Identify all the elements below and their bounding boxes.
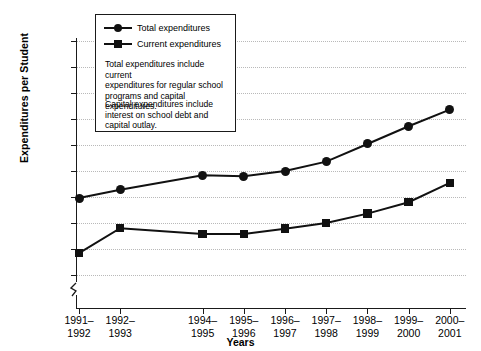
legend-label-current: Current expenditures [137, 39, 221, 49]
data-point-marker [404, 198, 413, 207]
legend-label-total: Total expenditures [137, 23, 210, 33]
data-point-marker [404, 122, 413, 131]
note-line: expenditures for regular school [105, 80, 233, 91]
data-point-marker [75, 249, 84, 258]
data-point-marker [446, 179, 455, 188]
data-point-marker [322, 157, 331, 166]
data-point-marker [198, 171, 207, 180]
legend-box: Total expenditures Current expenditures … [95, 14, 236, 132]
note-capital-expenditures: Capital expenditures include interest on… [105, 99, 233, 131]
circle-marker-icon [104, 23, 132, 33]
note-line: interest on school debt and [105, 110, 233, 121]
data-point-marker [198, 230, 207, 239]
data-point-marker [363, 209, 372, 218]
data-point-marker [322, 219, 331, 228]
data-point-marker [281, 224, 290, 233]
note-line: capital outlay. [105, 120, 233, 131]
square-marker-icon [104, 39, 132, 49]
note-line: Total expenditures include current [105, 59, 233, 80]
chart-container: Expenditures per Student 10,0009,5009,00… [0, 0, 481, 351]
data-point-marker [116, 224, 125, 233]
note-line: Capital expenditures include [105, 99, 233, 110]
data-point-marker [239, 172, 248, 181]
data-point-marker [281, 167, 290, 176]
data-point-marker [75, 194, 84, 203]
series-line-current [79, 183, 450, 253]
data-point-marker [240, 230, 249, 239]
legend-entry-current: Current expenditures [104, 38, 221, 50]
legend-entry-total: Total expenditures [104, 22, 210, 34]
data-point-marker [116, 185, 125, 194]
